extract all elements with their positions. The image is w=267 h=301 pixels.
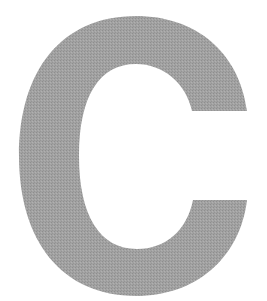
letter-canvas: C [0,0,267,301]
letter-c-glyph [0,0,267,301]
letter-c-shape [19,16,247,296]
